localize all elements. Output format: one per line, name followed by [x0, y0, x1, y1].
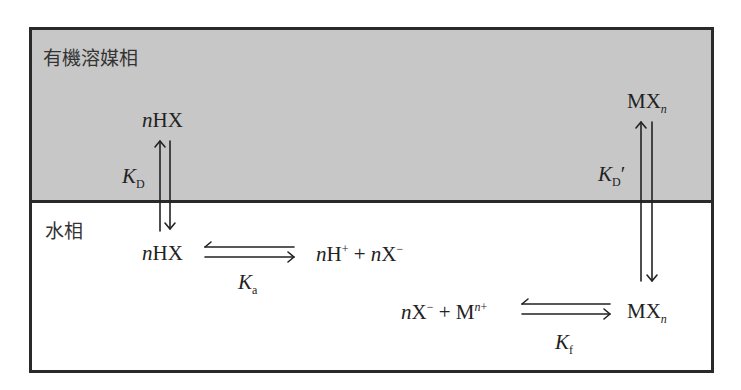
equilibrium-arrows: [0, 0, 741, 390]
kf-equilibrium-arrows-icon: [522, 299, 610, 319]
kd-up-arrow-icon: [155, 141, 165, 231]
kd-prime-up-arrow-icon: [636, 122, 646, 281]
kd-prime-down-arrow-icon: [647, 122, 657, 281]
kd-down-arrow-icon: [165, 141, 175, 229]
ka-equilibrium-arrows-icon: [205, 242, 294, 262]
